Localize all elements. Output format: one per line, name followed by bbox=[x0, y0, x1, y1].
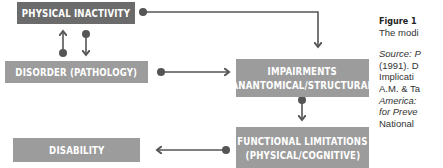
node-disability: DISABILITY bbox=[13, 138, 140, 162]
node-label-line1: FUNCTIONAL LIMITATIONS bbox=[237, 134, 367, 148]
node-functional-limitations: FUNCTIONAL LIMITATIONS (PHYSICAL/COGNITI… bbox=[236, 127, 369, 168]
caption-source-line: for Preve bbox=[379, 106, 443, 118]
node-label: DISORDER (PATHOLOGY) bbox=[16, 65, 138, 79]
node-label-line1: IMPAIRMENTS bbox=[268, 64, 337, 78]
caption-source-line: America: bbox=[379, 95, 443, 107]
caption-source-line: National bbox=[379, 118, 443, 130]
figure-label: Figure 1 bbox=[379, 15, 443, 27]
edge-inactivity-to-disorder bbox=[82, 30, 90, 55]
edge-disorder-to-impairments bbox=[157, 68, 229, 76]
node-label-line2: (ANANTOMICAL/STRUCTURAL) bbox=[228, 78, 378, 92]
caption-source: Source: P bbox=[379, 48, 443, 60]
edge-disorder-to-inactivity bbox=[59, 31, 67, 57]
caption-source-line: (1991). D bbox=[379, 60, 443, 72]
node-label: PHYSICAL INACTIVITY bbox=[22, 6, 130, 20]
node-impairments: IMPAIRMENTS (ANANTOMICAL/STRUCTURAL) bbox=[236, 59, 369, 97]
node-physical-inactivity: PHYSICAL INACTIVITY bbox=[17, 2, 135, 24]
edge-inactivity-to-impairments bbox=[139, 8, 318, 47]
edge-functional-to-disability bbox=[157, 146, 230, 154]
edge-impairments-to-functional bbox=[298, 96, 306, 120]
figure-caption: Figure 1 The modi Source: P (1991). D Im… bbox=[379, 15, 443, 129]
caption-title: The modi bbox=[379, 27, 443, 39]
node-label-line2: (PHYSICAL/COGNITIVE) bbox=[245, 148, 360, 162]
node-label: DISABILITY bbox=[49, 143, 104, 157]
node-disorder: DISORDER (PATHOLOGY) bbox=[5, 61, 148, 83]
caption-source-line: Implicati bbox=[379, 71, 443, 83]
caption-source-line: A.M. & Ta bbox=[379, 83, 443, 95]
